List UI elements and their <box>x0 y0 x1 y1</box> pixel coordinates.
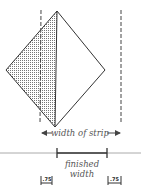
seam-right-label: .75 <box>110 176 119 182</box>
seam-allowance-left: .75 <box>41 176 52 185</box>
finished-width-bracket <box>57 148 107 158</box>
stippled-half-triangle <box>6 11 57 127</box>
seam-allowance-right: .75 <box>108 176 121 185</box>
width-of-strip-label: width of strip <box>51 128 110 138</box>
finished-label: finished <box>64 159 100 169</box>
arrow-left-icon <box>41 130 47 136</box>
width-label: width <box>70 169 94 179</box>
arrow-right-icon <box>115 130 121 136</box>
strip-diagram: width of strip finished width .75 .75 <box>0 0 141 186</box>
seam-left-label: .75 <box>43 176 52 182</box>
width-of-strip-dimension: width of strip <box>41 128 121 138</box>
